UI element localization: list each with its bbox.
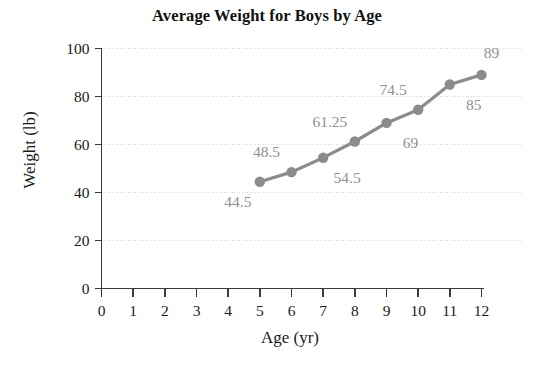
x-tick-label: 4 xyxy=(224,302,232,320)
x-tick-label: 0 xyxy=(98,302,106,320)
y-tick-label: 40 xyxy=(74,184,90,202)
x-tick-label: 11 xyxy=(442,302,457,320)
chart-container: Average Weight for Boys by Age Weight (l… xyxy=(0,0,534,365)
data-point-label: 44.5 xyxy=(224,193,251,211)
data-point-label: 89 xyxy=(484,44,500,62)
gridlines xyxy=(102,49,522,241)
y-tick-label: 0 xyxy=(82,280,90,298)
data-point-label: 54.5 xyxy=(334,169,361,187)
data-point-label: 69 xyxy=(403,134,419,152)
y-tick-label: 20 xyxy=(74,232,90,250)
data-point-label: 85 xyxy=(466,96,482,114)
x-tick-label: 5 xyxy=(256,302,264,320)
x-tick-label: 6 xyxy=(288,302,296,320)
x-tick-label: 12 xyxy=(474,302,490,320)
x-tick-label: 9 xyxy=(383,302,391,320)
y-tick-label: 60 xyxy=(74,136,90,154)
series-line xyxy=(260,75,482,182)
y-tick-label: 100 xyxy=(66,40,89,58)
x-tick-label: 10 xyxy=(410,302,426,320)
x-tick-label: 2 xyxy=(161,302,169,320)
data-point-label: 61.25 xyxy=(312,113,347,131)
x-axis-label: Age (yr) xyxy=(190,328,390,348)
x-tick-label: 3 xyxy=(193,302,201,320)
series-markers xyxy=(255,70,487,187)
x-tick-label: 7 xyxy=(319,302,327,320)
x-tick-label: 8 xyxy=(351,302,359,320)
y-axis-label: Weight (lb) xyxy=(20,90,40,210)
data-point-label: 74.5 xyxy=(380,81,407,99)
y-tick-label: 80 xyxy=(74,88,90,106)
x-tick-label: 1 xyxy=(129,302,137,320)
data-point-label: 48.5 xyxy=(253,143,280,161)
